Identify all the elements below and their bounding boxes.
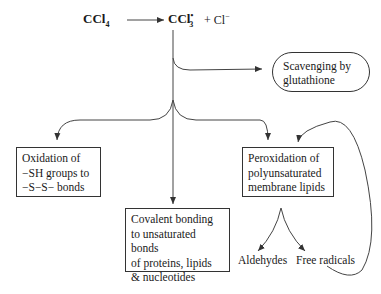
oxidation-line-1: Oxidation of: [22, 151, 95, 166]
arrow-to-oxidation: [57, 100, 173, 140]
arrow-to-peroxidation: [173, 100, 268, 140]
covalent-line-4: & nucleotides: [131, 270, 224, 285]
peroxidation-line-2: polyunsaturated: [248, 166, 328, 181]
node-scavenging-by-glutathione: Scavenging by glutathione: [272, 52, 370, 92]
scavenging-line-1: Scavenging by: [283, 59, 359, 73]
node-free-radicals: Free radicals: [296, 254, 355, 266]
oxidation-line-3: −S−S− bonds: [22, 180, 95, 195]
feedback-loop-arrow: [298, 121, 372, 275]
peroxidation-line-1: Peroxidation of: [248, 151, 328, 166]
chloride-charge: −: [225, 12, 230, 21]
reactant-ccl4: CCl4: [83, 11, 109, 29]
radical-base: CCl: [168, 11, 190, 26]
covalent-line-1: Covalent bonding: [131, 212, 224, 227]
arrow-to-free-radicals: [281, 208, 305, 251]
arrow-to-aldehydes: [258, 208, 281, 251]
covalent-line-3: of proteins, lipids: [131, 256, 224, 271]
radical-dot: •: [190, 11, 193, 20]
product-ccl3-radical: CCl•3: [168, 11, 193, 29]
chloride-base: Cl: [214, 13, 225, 27]
peroxidation-line-3: membrane lipids: [248, 180, 328, 195]
node-aldehydes: Aldehydes: [238, 254, 287, 266]
oxidation-line-2: −SH groups to: [22, 166, 95, 181]
plus-sign: +: [204, 13, 211, 27]
scavenging-line-2: glutathione: [283, 73, 359, 87]
node-oxidation-sh-groups: Oxidation of −SH groups to −S−S− bonds: [16, 147, 101, 197]
covalent-line-2: to unsaturated bonds: [131, 227, 224, 256]
reactant-subscript: 4: [105, 20, 109, 29]
radical-subscript: 3: [189, 20, 193, 29]
node-lipid-peroxidation: Peroxidation of polyunsaturated membrane…: [242, 147, 334, 197]
product-chloride-ion: + Cl−: [204, 12, 230, 28]
node-covalent-bonding: Covalent bonding to unsaturated bonds of…: [125, 208, 230, 272]
reactant-base: CCl: [83, 11, 105, 26]
arrow-to-scavenging: [173, 58, 262, 70]
